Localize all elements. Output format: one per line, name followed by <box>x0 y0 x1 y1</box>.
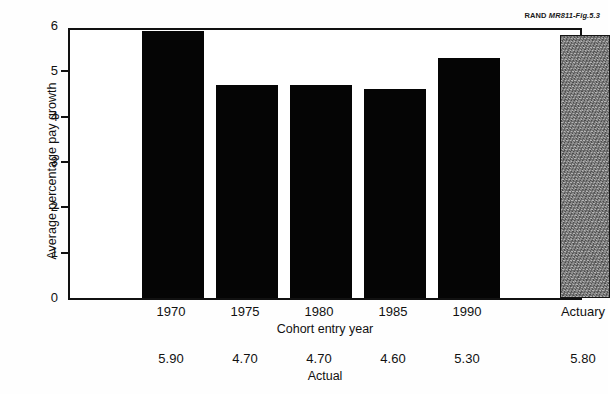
bar-fill <box>142 31 204 298</box>
x-tick-label-1990: 1990 <box>422 303 512 321</box>
y-tick-label: 4 <box>36 108 58 125</box>
y-tick-label: 1 <box>36 244 58 261</box>
bar-fill <box>438 58 500 298</box>
y-tick-mark <box>61 252 70 254</box>
rand-figure-credit: RAND MR811-Fig.5.3 <box>525 11 600 20</box>
bar-1990 <box>438 58 500 298</box>
bar-1980 <box>290 85 352 298</box>
y-tick-mark <box>61 206 70 208</box>
x-tick-label-Actuary: Actuary <box>538 303 614 321</box>
x-axis-ticks: 19701975198019851990Actuary <box>68 303 582 323</box>
x-axis-title: Cohort entry year <box>68 322 582 336</box>
actual-value-row: 5.904.704.704.605.305.80 <box>68 350 582 370</box>
bar-Actuary <box>560 35 610 298</box>
actual-value-1990: 5.30 <box>422 350 512 368</box>
credit-org: RAND <box>525 11 547 20</box>
bar-1970 <box>142 31 204 298</box>
plot-area: 0123456 <box>68 28 582 300</box>
actual-value-Actuary: 5.80 <box>538 350 614 368</box>
bar-fill <box>364 89 426 298</box>
y-tick-label: 5 <box>36 62 58 79</box>
y-tick-label: 3 <box>36 153 58 170</box>
bar-fill <box>560 35 610 298</box>
y-tick-mark <box>61 161 70 163</box>
actual-row-title: Actual <box>68 369 582 383</box>
bar-series <box>70 30 580 298</box>
bar-1975 <box>216 85 278 298</box>
y-tick-mark <box>61 70 70 72</box>
bar-fill <box>290 85 352 298</box>
credit-figure-id: MR811-Fig.5.3 <box>549 11 600 20</box>
y-tick-label: 6 <box>36 17 58 34</box>
y-tick-mark <box>61 116 70 118</box>
bar-fill <box>216 85 278 298</box>
y-tick-label: 2 <box>36 198 58 215</box>
y-tick-label: 0 <box>36 289 58 306</box>
bar-1985 <box>364 89 426 298</box>
